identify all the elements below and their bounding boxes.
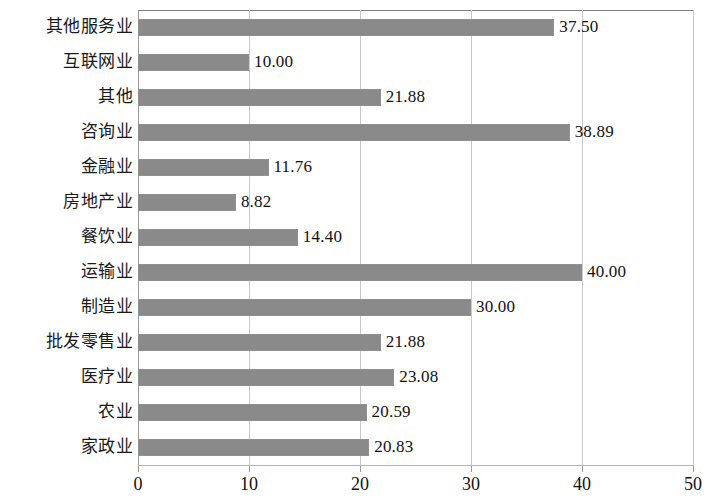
- category-label: 运输业: [0, 262, 133, 282]
- tick-mark: [471, 466, 472, 472]
- tick-mark: [138, 466, 139, 472]
- bar-value-label: 14.40: [303, 227, 342, 247]
- bar[interactable]: [138, 229, 298, 246]
- tick-label: 40: [573, 473, 591, 495]
- plot-area: 37.5010.0021.8838.8911.768.8214.4040.003…: [138, 10, 693, 465]
- bar[interactable]: [138, 439, 369, 456]
- bar[interactable]: [138, 89, 381, 106]
- category-label: 房地产业: [0, 192, 133, 212]
- category-label: 餐饮业: [0, 227, 133, 247]
- category-label: 农业: [0, 402, 133, 422]
- tick-mark: [693, 466, 694, 472]
- category-label: 其他服务业: [0, 17, 133, 37]
- tick-mark: [249, 466, 250, 472]
- category-label: 家政业: [0, 437, 133, 457]
- bar-row: 10.00: [138, 45, 693, 80]
- bar-value-label: 37.50: [559, 17, 598, 37]
- tick-label: 50: [684, 473, 702, 495]
- bar-value-label: 23.08: [399, 367, 438, 387]
- category-label: 批发零售业: [0, 332, 133, 352]
- bar-row: 21.88: [138, 325, 693, 360]
- category-label: 互联网业: [0, 52, 133, 72]
- category-axis: 其他服务业互联网业其他咨询业金融业房地产业餐饮业运输业制造业批发零售业医疗业农业…: [0, 10, 133, 465]
- value-axis: 01020304050: [0, 466, 706, 502]
- category-label: 医疗业: [0, 367, 133, 387]
- bar-value-label: 40.00: [587, 262, 626, 282]
- gridline-50: [693, 10, 694, 465]
- tick-label: 30: [462, 473, 480, 495]
- bar-row: 11.76: [138, 150, 693, 185]
- bar-value-label: 10.00: [254, 52, 293, 72]
- bar-value-label: 8.82: [241, 192, 272, 212]
- tick-mark: [360, 466, 361, 472]
- bar-row: 38.89: [138, 115, 693, 150]
- bar-row: 21.88: [138, 80, 693, 115]
- bar-value-label: 38.89: [575, 122, 614, 142]
- bar-row: 23.08: [138, 360, 693, 395]
- bar-value-label: 21.88: [386, 87, 425, 107]
- category-label: 咨询业: [0, 122, 133, 142]
- tick-label: 0: [134, 473, 143, 495]
- tick-label: 20: [351, 473, 369, 495]
- bar-row: 20.83: [138, 430, 693, 465]
- bar[interactable]: [138, 264, 582, 281]
- bar-row: 37.50: [138, 10, 693, 45]
- bar[interactable]: [138, 299, 471, 316]
- bar[interactable]: [138, 404, 367, 421]
- tick-mark: [582, 466, 583, 472]
- bar-value-label: 11.76: [274, 157, 313, 177]
- bar[interactable]: [138, 334, 381, 351]
- bar[interactable]: [138, 54, 249, 71]
- category-label: 金融业: [0, 157, 133, 177]
- tick-label: 10: [240, 473, 258, 495]
- bar-row: 20.59: [138, 395, 693, 430]
- bar[interactable]: [138, 159, 269, 176]
- category-label: 其他: [0, 87, 133, 107]
- bar-row: 8.82: [138, 185, 693, 220]
- bar-value-label: 20.59: [372, 402, 411, 422]
- bar-row: 30.00: [138, 290, 693, 325]
- bar-value-label: 20.83: [374, 437, 413, 457]
- bar-row: 40.00: [138, 255, 693, 290]
- bar[interactable]: [138, 369, 394, 386]
- bar-value-label: 21.88: [386, 332, 425, 352]
- bar[interactable]: [138, 19, 554, 36]
- bar-value-label: 30.00: [476, 297, 515, 317]
- bar[interactable]: [138, 194, 236, 211]
- bar-row: 14.40: [138, 220, 693, 255]
- bar[interactable]: [138, 124, 570, 141]
- bar-chart: 37.5010.0021.8838.8911.768.8214.4040.003…: [0, 0, 706, 502]
- category-label: 制造业: [0, 297, 133, 317]
